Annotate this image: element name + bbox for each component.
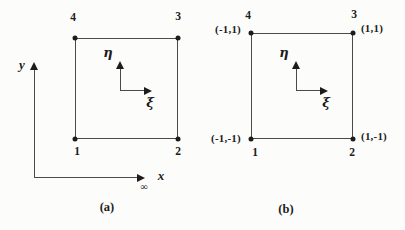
node-1-label-a: 1 — [74, 146, 80, 158]
xi-label-b: ξ — [322, 96, 330, 109]
node-1-dot-b — [249, 137, 254, 142]
node-4-label-b: 4 — [245, 10, 251, 22]
xi-label-a: ξ — [146, 96, 154, 109]
node-3-dot-b — [351, 31, 356, 36]
y-axis-label: y — [19, 58, 25, 71]
eta-label-a: η — [103, 46, 112, 59]
node-2-label-b: 2 — [349, 147, 355, 159]
node-3-label-b: 3 — [351, 9, 357, 21]
node-2-dot-a — [176, 137, 181, 142]
eta-axis-arrowhead-a — [116, 61, 124, 69]
xi-axis-arrowhead-a — [144, 87, 152, 95]
panel-b-caption: (b) — [278, 203, 293, 216]
coord-bottom-right: (1,-1) — [361, 131, 387, 142]
x-axis-label: x — [158, 169, 165, 182]
panel-a-caption: (a) — [100, 201, 115, 214]
coord-top-right: (1,1) — [361, 23, 383, 34]
element-outline-b — [251, 33, 353, 139]
coord-bottom-left: (-1,-1) — [211, 133, 241, 144]
node-2-dot-b — [351, 137, 356, 142]
eta-axis-line-b — [296, 66, 297, 90]
y-axis-line — [34, 68, 35, 178]
xi-axis-line-b — [296, 90, 322, 91]
node-3-label-a: 3 — [175, 11, 181, 23]
x-axis-infinity-mark: ∞ — [140, 182, 147, 192]
node-3-dot-a — [176, 36, 181, 41]
node-1-label-b: 1 — [252, 147, 258, 159]
xi-axis-line-a — [120, 90, 146, 91]
element-outline-a — [75, 38, 178, 139]
eta-label-b: η — [279, 46, 288, 59]
quad-element-mapping-figure: y x ∞ 4 3 1 2 η ξ (a) — [0, 0, 405, 230]
x-axis-line — [34, 177, 138, 178]
node-2-label-a: 2 — [175, 146, 181, 158]
node-1-dot-a — [73, 137, 78, 142]
y-axis-arrowhead — [30, 62, 38, 70]
eta-axis-line-a — [120, 66, 121, 90]
coord-top-left: (-1,1) — [215, 24, 241, 35]
xi-axis-arrowhead-b — [320, 87, 328, 95]
node-4-dot-b — [249, 31, 254, 36]
node-4-label-a: 4 — [70, 12, 76, 24]
node-4-dot-a — [73, 36, 78, 41]
eta-axis-arrowhead-b — [292, 61, 300, 69]
